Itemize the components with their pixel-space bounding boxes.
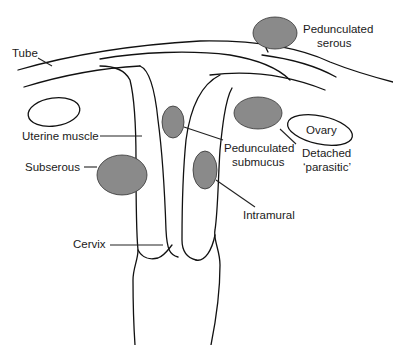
pedunculated-submucus-label-line2: submucus	[232, 156, 285, 168]
detached-parasitic-label-line1: Detached	[302, 147, 351, 159]
pedunculated-submucus-fibroid	[162, 106, 184, 138]
uterus-right-cervix-curve	[196, 235, 215, 260]
uterus-left-outer-wall	[100, 66, 138, 345]
uterus-right-outer-wall	[211, 88, 232, 345]
intramural-fibroid	[193, 151, 217, 189]
cervical-canal-bottom	[138, 245, 172, 259]
fibroid-locations-diagram: Ovary Tube Pedunculated serous Uterine m…	[0, 0, 393, 345]
intramural-label: Intramural	[243, 209, 295, 221]
pedunculated-submucus-label-line1: Pedunculated	[224, 142, 294, 154]
subserous-label: Subserous	[25, 161, 80, 173]
right-tube-lower-line	[210, 73, 325, 90]
detached-parasitic-label-line2: ‘parasitic’	[303, 161, 351, 173]
pedunculated-serous-stalk	[266, 48, 268, 52]
intramural-leader-line	[216, 180, 255, 207]
detached-parasitic-fibroid	[234, 97, 282, 129]
left-ovary-shape	[26, 95, 81, 130]
right-tube-upper-line	[262, 55, 336, 77]
fallopian-tube-lower-line	[24, 66, 140, 87]
pedunculated-serous-label-line2: serous	[317, 37, 352, 49]
cervix-label: Cervix	[73, 238, 106, 250]
uterine-cavity-left-wall	[140, 66, 178, 257]
pedunculated-serous-fibroid	[253, 17, 297, 49]
pedunculated-serous-label-line1: Pedunculated	[303, 23, 373, 35]
uterine-muscle-label: Uterine muscle	[22, 130, 99, 142]
ovary-label: Ovary	[306, 124, 337, 136]
pedunculated-submucus-leader-line	[184, 127, 223, 140]
tube-label: Tube	[12, 47, 38, 59]
subserous-fibroid	[97, 155, 147, 195]
